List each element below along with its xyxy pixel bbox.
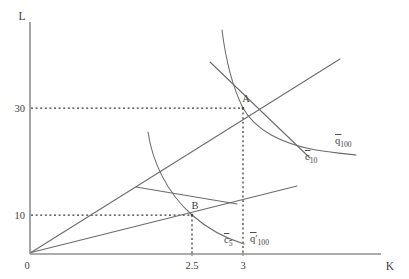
curve-label-isoquant-upper: q100 <box>335 135 352 149</box>
y-axis-label: L <box>18 10 25 22</box>
curve-label-isoquant-upper-sub: 100 <box>340 140 352 149</box>
axes-group <box>30 22 381 254</box>
svg-text:c10: c10 <box>305 151 317 165</box>
point-marker-a <box>242 107 245 110</box>
curve-label-isocost-lower-sub: 5 <box>229 239 233 248</box>
point-marker-b <box>191 214 194 217</box>
curve-label-isoquant-lower-sub: 100 <box>258 238 270 247</box>
figure-container: L K 0 30 10 2.5 3 A B q100 c10 c5 <box>0 0 409 279</box>
x-tick-label-2-5: 2.5 <box>185 260 198 271</box>
curve-label-isocost-upper: c10 <box>305 151 317 165</box>
curve-label-isoquant-lower: q′100 <box>250 233 269 247</box>
curve-label-isocost-upper-sub: 10 <box>310 156 318 165</box>
y-tick-label-30: 30 <box>15 103 26 114</box>
origin-label: 0 <box>24 260 29 271</box>
x-tick-label-3: 3 <box>240 260 245 271</box>
isoquant-isocost-chart: L K 0 30 10 2.5 3 A B q100 c10 c5 <box>0 0 409 279</box>
svg-text:c5: c5 <box>224 234 233 248</box>
svg-text:q100: q100 <box>335 135 352 149</box>
point-label-a: A <box>242 93 250 104</box>
guide-lines-group <box>31 108 243 253</box>
isocost-lower-line <box>136 187 237 204</box>
curve-label-isocost-lower: c5 <box>224 234 233 248</box>
y-tick-label-10: 10 <box>15 210 26 221</box>
isocost-upper-line <box>210 62 310 158</box>
expansion-rays-group <box>31 59 340 253</box>
point-markers-group <box>191 107 245 217</box>
x-axis-label: K <box>386 260 395 272</box>
svg-text:q′100: q′100 <box>250 233 269 247</box>
point-label-b: B <box>191 200 198 211</box>
expansion-path-ray-a <box>31 59 340 253</box>
